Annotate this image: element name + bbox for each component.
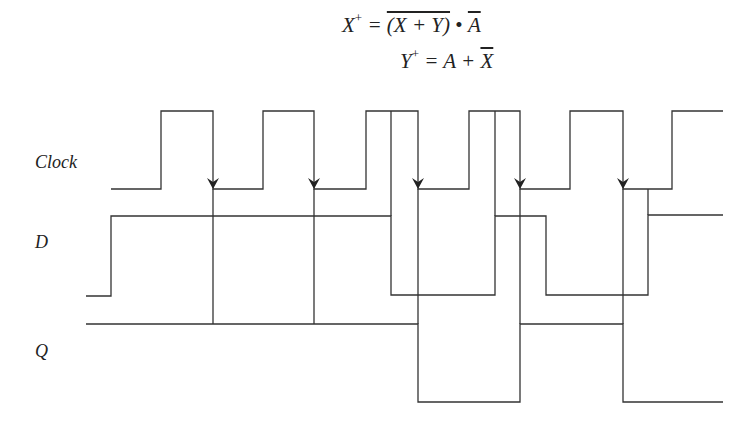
timing-diagram [0, 0, 748, 427]
d-waveform [86, 215, 723, 296]
clock-waveform [111, 111, 723, 189]
q-waveform [86, 324, 723, 402]
